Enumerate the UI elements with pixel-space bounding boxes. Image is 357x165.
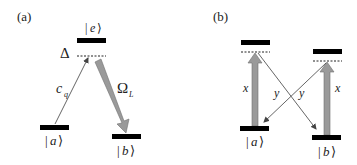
control-label: Ω L bbox=[117, 80, 134, 99]
svg-text:a: a bbox=[251, 134, 258, 149]
detuning-label: Δ bbox=[60, 45, 70, 61]
level-upper-left bbox=[241, 40, 270, 45]
svg-text:a: a bbox=[50, 133, 57, 148]
level-a-b bbox=[240, 126, 269, 131]
left-vertical-arrow bbox=[248, 53, 262, 126]
panel-a: (a) | e ⟩ Δ c q Ω L | a ⟩ bbox=[17, 9, 141, 158]
svg-text:L: L bbox=[128, 90, 134, 99]
level-a-b-label: | a ⟩ bbox=[246, 134, 264, 149]
level-b-label: | b ⟩ bbox=[117, 143, 135, 158]
probe-label: c q bbox=[56, 81, 68, 99]
level-e bbox=[77, 38, 106, 43]
svg-text:⟩: ⟩ bbox=[259, 134, 264, 149]
svg-text:⟩: ⟩ bbox=[331, 144, 336, 159]
svg-text:b: b bbox=[323, 144, 330, 159]
svg-text:⟩: ⟩ bbox=[97, 21, 102, 35]
left-vertical-label: x bbox=[242, 81, 249, 95]
panel-b-label: (b) bbox=[213, 9, 228, 24]
panel-a-label: (a) bbox=[17, 9, 31, 24]
panel-b: (b) x x y y | a ⟩ | b bbox=[213, 9, 342, 159]
level-a bbox=[40, 125, 69, 130]
level-b bbox=[112, 134, 141, 139]
svg-text:|: | bbox=[85, 21, 87, 35]
level-e-label: | e ⟩ bbox=[85, 21, 102, 35]
svg-text:|: | bbox=[45, 133, 48, 148]
level-upper-right bbox=[313, 49, 342, 54]
right-vertical-label: x bbox=[334, 81, 341, 95]
svg-text:e: e bbox=[90, 21, 96, 35]
control-arrow bbox=[95, 59, 129, 133]
svg-text:b: b bbox=[122, 143, 129, 158]
svg-text:|: | bbox=[318, 144, 321, 159]
level-b-b bbox=[312, 135, 341, 140]
cross-right-label: y bbox=[298, 86, 305, 100]
svg-text:q: q bbox=[64, 90, 68, 99]
svg-text:|: | bbox=[117, 143, 120, 158]
cross-arrow-to-b bbox=[258, 53, 316, 129]
right-vertical-arrow bbox=[320, 62, 334, 135]
level-b-b-label: | b ⟩ bbox=[318, 144, 336, 159]
diagram-canvas: (a) | e ⟩ Δ c q Ω L | a ⟩ bbox=[0, 0, 357, 165]
svg-text:⟩: ⟩ bbox=[58, 133, 63, 148]
svg-text:Ω: Ω bbox=[117, 80, 128, 96]
level-a-label: | a ⟩ bbox=[45, 133, 63, 148]
svg-text:⟩: ⟩ bbox=[130, 143, 135, 158]
svg-text:|: | bbox=[246, 134, 249, 149]
svg-text:c: c bbox=[56, 81, 63, 96]
cross-left-label: y bbox=[273, 86, 280, 100]
